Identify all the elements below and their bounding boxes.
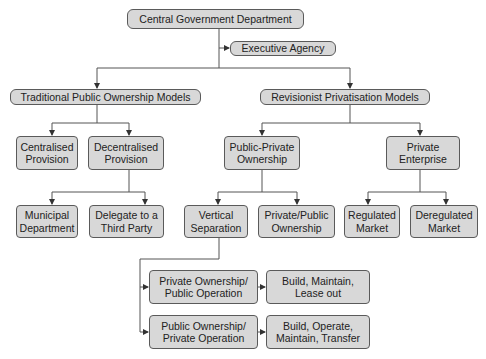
node-regulated-market: Regulated Market [344, 205, 400, 238]
node-public-ownership-private-operation: Public Ownership/ Private Operation [149, 315, 258, 349]
node-revisionist-models: Revisionist Privatisation Models [260, 89, 430, 105]
org-diagram: Central Government Department Executive … [0, 0, 486, 359]
node-build-maintain-lease: Build, Maintain, Lease out [266, 270, 370, 304]
node-executive-agency: Executive Agency [230, 41, 336, 56]
node-central-government: Central Government Department [127, 9, 304, 29]
node-private-enterprise: Private Enterprise [386, 136, 460, 170]
node-centralised-provision: Centralised Provision [16, 136, 78, 170]
node-traditional-models: Traditional Public Ownership Models [10, 89, 201, 105]
node-build-operate-maintain-transfer: Build, Operate, Maintain, Transfer [266, 315, 370, 349]
node-municipal-department: Municipal Department [16, 205, 78, 238]
node-decentralised-provision: Decentralised Provision [88, 136, 164, 170]
node-private-ownership-public-operation: Private Ownership/ Public Operation [149, 270, 258, 304]
node-deregulated-market: Deregulated Market [410, 205, 478, 238]
node-delegate-third-party: Delegate to a Third Party [89, 205, 164, 238]
node-private-public-ownership: Private/Public Ownership [258, 205, 335, 238]
node-public-private-ownership: Public-Private Ownership [224, 136, 300, 170]
node-vertical-separation: Vertical Separation [184, 205, 248, 238]
